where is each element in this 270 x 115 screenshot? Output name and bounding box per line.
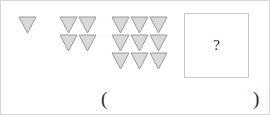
answer-blank[interactable] — [113, 91, 251, 107]
down-triangle-icon — [149, 16, 168, 34]
down-triangle-icon — [130, 34, 149, 52]
down-triangle-icon — [111, 16, 130, 34]
down-triangle-icon — [149, 52, 168, 70]
down-triangle-icon — [78, 16, 97, 34]
down-triangle-icon — [18, 16, 37, 34]
triangle-group-2 — [59, 16, 97, 52]
down-triangle-icon — [59, 16, 78, 34]
figure-sequence: ? — [1, 1, 270, 83]
down-triangle-icon — [78, 34, 97, 52]
triangle-group-3 — [111, 16, 168, 70]
triangle-row — [59, 34, 97, 52]
triangle-row — [111, 52, 168, 70]
question-mark: ? — [213, 38, 220, 53]
puzzle-canvas: ? ( ) — [0, 0, 270, 115]
down-triangle-icon — [111, 34, 130, 52]
close-paren: ) — [253, 89, 259, 109]
down-triangle-icon — [59, 34, 78, 52]
down-triangle-icon — [130, 16, 149, 34]
unknown-figure-box[interactable]: ? — [184, 13, 249, 78]
triangle-group-1 — [18, 16, 37, 34]
answer-line: ( ) — [1, 83, 270, 115]
open-paren: ( — [101, 89, 107, 109]
triangle-row — [18, 16, 37, 34]
triangle-row — [111, 34, 168, 52]
down-triangle-icon — [149, 34, 168, 52]
down-triangle-icon — [111, 52, 130, 70]
down-triangle-icon — [130, 52, 149, 70]
triangle-row — [59, 16, 97, 34]
triangle-row — [111, 16, 168, 34]
